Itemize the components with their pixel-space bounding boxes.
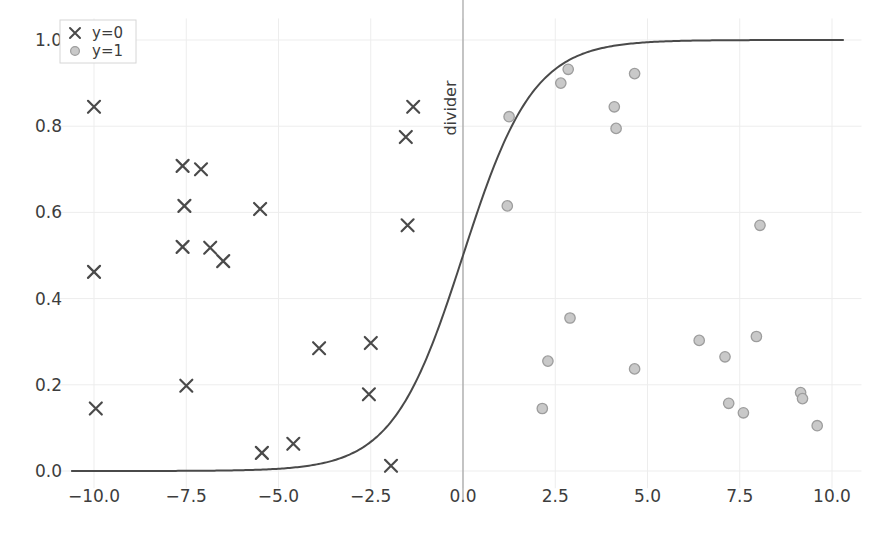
legend-label: y=0: [92, 24, 123, 42]
marker-circle: [611, 123, 621, 133]
marker-circle: [797, 393, 807, 403]
marker-circle: [609, 102, 619, 112]
legend: y=0y=1: [60, 20, 136, 63]
marker-x: [256, 447, 268, 459]
x-tick-label: 5.0: [634, 486, 661, 506]
marker-x: [400, 131, 412, 143]
chart-figure: −10.0−7.5−5.0−2.50.02.55.07.510.0 0.00.2…: [0, 0, 875, 551]
marker-x: [217, 255, 229, 267]
marker-circle: [556, 78, 566, 88]
marker-x: [287, 438, 299, 450]
marker-circle: [738, 408, 748, 418]
y-tick-label: 0.0: [35, 461, 62, 481]
series-y=0: [88, 101, 419, 472]
marker-x: [204, 242, 216, 254]
x-tick-label: 10.0: [813, 486, 851, 506]
legend-marker-circle: [71, 47, 80, 56]
marker-x: [402, 219, 414, 231]
y-tick-label: 0.2: [35, 375, 62, 395]
marker-circle: [629, 68, 639, 78]
marker-circle: [812, 421, 822, 431]
marker-circle: [751, 331, 761, 341]
legend-label: y=1: [92, 42, 123, 60]
x-tick-label: −10.0: [68, 486, 120, 506]
marker-x: [177, 241, 189, 253]
marker-circle: [502, 201, 512, 211]
marker-circle: [724, 398, 734, 408]
y-tick-label: 0.8: [35, 116, 62, 136]
y-tick-label: 0.6: [35, 202, 62, 222]
marker-x: [407, 101, 419, 113]
marker-circle: [565, 313, 575, 323]
x-tick-label: 7.5: [726, 486, 753, 506]
series-y=1: [502, 64, 822, 431]
marker-circle: [563, 64, 573, 74]
marker-circle: [720, 352, 730, 362]
marker-circle: [537, 403, 547, 413]
marker-x: [90, 403, 102, 415]
marker-x: [363, 388, 375, 400]
scatter-plot-svg: −10.0−7.5−5.0−2.50.02.55.07.510.0 0.00.2…: [0, 0, 875, 551]
marker-x: [254, 203, 266, 215]
marker-x: [313, 342, 325, 354]
x-tick-label: −5.0: [258, 486, 299, 506]
marker-circle: [755, 220, 765, 230]
x-tick-label: −7.5: [166, 486, 207, 506]
y-axis-tick-labels: 0.00.20.40.60.81.0: [35, 30, 62, 481]
marker-circle: [543, 356, 553, 366]
marker-circle: [629, 364, 639, 374]
x-tick-label: 2.5: [542, 486, 569, 506]
y-tick-label: 0.4: [35, 289, 62, 309]
y-tick-label: 1.0: [35, 30, 62, 50]
x-axis-tick-labels: −10.0−7.5−5.0−2.50.02.55.07.510.0: [68, 486, 851, 506]
marker-x: [195, 163, 207, 175]
marker-x: [385, 460, 397, 472]
divider-label: divider: [441, 80, 460, 136]
marker-x: [178, 200, 190, 212]
marker-circle: [694, 335, 704, 345]
marker-x: [177, 160, 189, 172]
divider-annotation: divider: [441, 0, 463, 500]
x-tick-label: −2.5: [350, 486, 391, 506]
marker-circle: [504, 112, 514, 122]
